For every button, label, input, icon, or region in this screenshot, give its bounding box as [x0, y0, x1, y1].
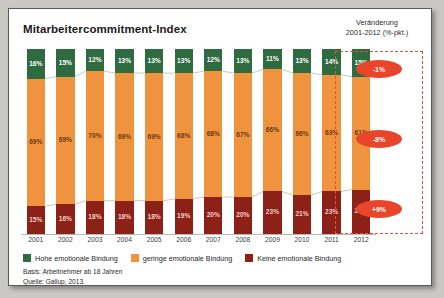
change-badge-value: +9%	[372, 206, 386, 213]
change-header-line1: Veränderung	[331, 18, 423, 28]
segment-geringe-label: 69%	[148, 134, 161, 141]
segment-geringe-label: 68%	[207, 131, 220, 138]
segment-hohe-label: 13%	[118, 58, 131, 65]
segment-keine-2006: 19%	[175, 199, 193, 234]
bar-2004[interactable]: 13%69%18%	[115, 49, 133, 234]
legend-label: Keine emotionale Bindung	[257, 254, 341, 263]
bar-2006[interactable]: 13%68%19%	[175, 49, 193, 234]
segment-geringe-2001: 69%	[27, 79, 45, 207]
segment-keine-label: 18%	[88, 214, 101, 221]
segment-hohe-label: 13%	[295, 58, 308, 65]
segment-hohe-2006: 13%	[175, 49, 193, 73]
bar-2009[interactable]: 11%66%23%	[263, 49, 281, 234]
segment-hohe-label: 15%	[59, 60, 72, 67]
segment-geringe-label: 69%	[59, 137, 72, 144]
segment-hohe-2004: 13%	[115, 49, 133, 73]
x-label-2010: 2010	[287, 236, 317, 243]
x-label-2011: 2011	[317, 236, 347, 243]
bar-2003[interactable]: 12%70%18%	[86, 49, 104, 234]
segment-geringe-label: 69%	[29, 139, 42, 146]
segment-keine-label: 20%	[236, 212, 249, 219]
x-label-2005: 2005	[139, 236, 169, 243]
x-label-2002: 2002	[51, 236, 81, 243]
x-label-2003: 2003	[80, 236, 110, 243]
x-axis-labels: 2001200220032004200520062007200820092010…	[21, 236, 376, 249]
page-title: Mitarbeitercommitment-Index	[23, 23, 187, 35]
legend-item-1[interactable]: Hohe emotionale Bindung	[23, 254, 118, 263]
segment-keine-label: 23%	[266, 209, 279, 216]
segment-keine-2009: 23%	[263, 191, 281, 234]
segment-hohe-label: 12%	[207, 57, 220, 64]
segment-keine-label: 19%	[177, 213, 190, 220]
bar-2008[interactable]: 13%67%20%	[234, 49, 252, 234]
change-badge-value: -8%	[373, 136, 385, 143]
segment-hohe-label: 13%	[236, 58, 249, 65]
change-badge-2: -8%	[356, 130, 402, 148]
segment-hohe-2008: 13%	[234, 49, 252, 73]
segment-geringe-2004: 69%	[115, 73, 133, 201]
segment-hohe-label: 11%	[266, 56, 279, 63]
segment-geringe-label: 69%	[118, 134, 131, 141]
segment-hohe-2009: 11%	[263, 49, 281, 69]
bar-2005[interactable]: 13%69%18%	[145, 49, 163, 234]
segment-keine-label: 20%	[207, 212, 220, 219]
segment-keine-2008: 20%	[234, 197, 252, 234]
x-label-2009: 2009	[258, 236, 288, 243]
x-label-2012: 2012	[346, 236, 376, 243]
x-axis-line	[21, 234, 376, 235]
segment-keine-label: 18%	[148, 214, 161, 221]
change-badge-value: -1%	[373, 66, 385, 73]
segment-keine-2004: 18%	[115, 201, 133, 234]
segment-geringe-label: 68%	[177, 133, 190, 140]
segment-hohe-2010: 13%	[293, 49, 311, 73]
segment-geringe-2003: 70%	[86, 71, 104, 201]
footnote: Basis: Arbeitnehmer ab 18 Jahren Quelle:…	[23, 267, 122, 287]
segment-geringe-2008: 67%	[234, 73, 252, 197]
segment-hohe-2007: 12%	[204, 49, 222, 71]
segment-hohe-2002: 15%	[56, 49, 74, 77]
x-label-2008: 2008	[228, 236, 258, 243]
segment-geringe-label: 67%	[236, 132, 249, 139]
bar-2010[interactable]: 13%66%21%	[293, 49, 311, 234]
legend-label: geringe emotionale Bindung	[143, 254, 233, 263]
segment-hohe-label: 12%	[88, 57, 101, 64]
segment-hohe-2003: 12%	[86, 49, 104, 71]
x-label-2004: 2004	[110, 236, 140, 243]
segment-keine-2002: 16%	[56, 204, 74, 234]
legend-swatch-icon	[131, 254, 139, 262]
segment-geringe-label: 66%	[266, 127, 279, 134]
bar-2007[interactable]: 12%68%20%	[204, 49, 222, 234]
segment-keine-2010: 21%	[293, 195, 311, 234]
legend-item-2[interactable]: geringe emotionale Bindung	[131, 254, 233, 263]
bar-2002[interactable]: 15%69%16%	[56, 49, 74, 234]
segment-geringe-2007: 68%	[204, 71, 222, 197]
segment-hohe-2005: 13%	[145, 49, 163, 73]
x-label-2006: 2006	[169, 236, 199, 243]
bar-2001[interactable]: 16%69%15%	[27, 49, 45, 234]
legend-swatch-icon	[245, 254, 253, 262]
x-label-2007: 2007	[199, 236, 229, 243]
segment-geringe-label: 70%	[88, 133, 101, 140]
footnote-basis: Basis: Arbeitnehmer ab 18 Jahren	[23, 267, 122, 277]
segment-geringe-2002: 69%	[56, 77, 74, 205]
segment-keine-label: 18%	[118, 214, 131, 221]
segment-keine-label: 21%	[295, 211, 308, 218]
x-label-2001: 2001	[21, 236, 51, 243]
segment-keine-label: 16%	[59, 216, 72, 223]
segment-hohe-label: 13%	[148, 58, 161, 65]
segment-keine-label: 15%	[29, 217, 42, 224]
stacked-bar-plot: 16%69%15%15%69%16%12%70%18%13%69%18%13%6…	[21, 49, 376, 234]
segment-hohe-label: 13%	[177, 58, 190, 65]
segment-keine-2007: 20%	[204, 197, 222, 234]
legend-item-3[interactable]: Keine emotionale Bindung	[245, 254, 341, 263]
change-badge-3: +9%	[356, 200, 402, 218]
segment-keine-2001: 15%	[27, 206, 45, 234]
segment-hohe-label: 16%	[29, 61, 42, 68]
chart-legend: Hohe emotionale Bindunggeringe emotional…	[23, 252, 354, 264]
footnote-source: Quelle: Gallup, 2013.	[23, 277, 122, 287]
segment-geringe-label: 66%	[295, 131, 308, 138]
legend-label: Hohe emotionale Bindung	[35, 254, 118, 263]
change-panel: -1%-8%+9%	[335, 51, 423, 234]
change-header-line2: 2001-2012 (%-pkt.)	[331, 28, 423, 38]
chart-card: Mitarbeitercommitment-Index Veränderung …	[8, 8, 432, 286]
